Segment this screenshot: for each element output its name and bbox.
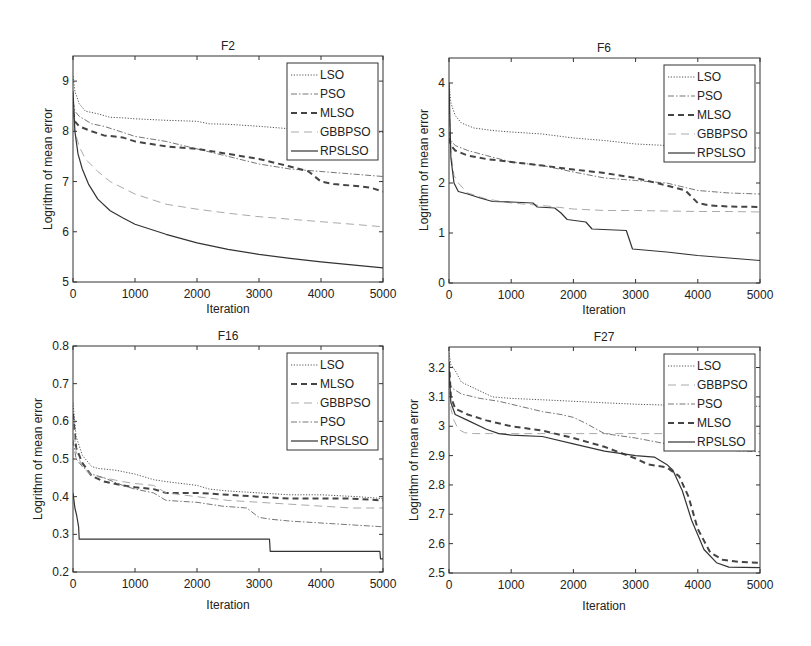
x-axis-label: Iteration xyxy=(582,599,625,613)
y-tick-label: 2 xyxy=(438,176,445,190)
x-tick-label: 5000 xyxy=(747,288,774,302)
y-tick-label: 3 xyxy=(438,126,445,140)
subplot-title: F2 xyxy=(221,39,235,53)
y-tick-label: 2.6 xyxy=(428,537,445,551)
x-tick-label: 2000 xyxy=(560,288,587,302)
legend-label-pso: PSO xyxy=(697,397,722,411)
y-tick-label: 1 xyxy=(438,226,445,240)
y-tick-label: 4 xyxy=(438,76,445,90)
x-tick-label: 4000 xyxy=(308,287,335,301)
y-axis-label: Logrithm of mean error xyxy=(41,108,55,230)
legend-label-gbbpso: GBBPSO xyxy=(697,378,748,392)
x-tick-label: 3000 xyxy=(246,577,273,591)
series-line-rpslso xyxy=(73,493,383,559)
legend-label-pso: PSO xyxy=(697,89,722,103)
y-tick-label: 3.1 xyxy=(428,390,445,404)
x-tick-label: 1000 xyxy=(498,578,525,592)
legend-label-gbbpso: GBBPSO xyxy=(320,125,371,139)
y-tick-label: 0.5 xyxy=(52,452,69,466)
y-tick-label: 0.6 xyxy=(52,414,69,428)
y-tick-label: 0 xyxy=(438,276,445,290)
x-tick-label: 4000 xyxy=(308,577,335,591)
legend: LSOGBBPSOPSOMLSORPSLSO xyxy=(664,354,755,451)
figure: F2 01000200030004000500056789LSOPSOMLSOG… xyxy=(0,0,811,646)
x-axis-label: Iteration xyxy=(206,598,249,612)
x-tick-label: 3000 xyxy=(246,287,273,301)
subplot-title: F16 xyxy=(218,329,239,343)
y-axis-label: Logrithm of mean error xyxy=(407,399,421,521)
x-tick-label: 2000 xyxy=(184,287,211,301)
legend-label-lso: LSO xyxy=(697,70,721,84)
y-tick-label: 0.4 xyxy=(52,490,69,504)
x-tick-label: 4000 xyxy=(684,288,711,302)
plot-area: 0100020003000400050002.52.62.72.82.933.1… xyxy=(428,347,773,592)
x-tick-label: 5000 xyxy=(370,287,397,301)
y-axis-label: Logrithm of mean error xyxy=(417,109,431,231)
subplot-title: F6 xyxy=(597,41,611,55)
y-tick-label: 5 xyxy=(62,275,69,289)
y-tick-label: 0.3 xyxy=(52,527,69,541)
x-tick-label: 1000 xyxy=(122,287,149,301)
y-tick-label: 2.7 xyxy=(428,507,445,521)
legend-label-pso: PSO xyxy=(320,87,345,101)
legend-label-gbbpso: GBBPSO xyxy=(697,127,748,141)
legend-label-rpslso: RPSLSO xyxy=(320,434,369,448)
series-line-pso xyxy=(73,440,383,527)
y-tick-label: 9 xyxy=(62,74,69,88)
x-tick-label: 0 xyxy=(446,578,453,592)
y-tick-label: 3.2 xyxy=(428,361,445,375)
plot-area: 01000200030004000500056789LSOPSOMLSOGBBP… xyxy=(62,56,396,301)
x-tick-label: 3000 xyxy=(622,578,649,592)
legend-label-mlso: MLSO xyxy=(320,377,354,391)
legend: LSOPSOMLSOGBBPSORPSLSO xyxy=(664,65,755,162)
x-tick-label: 1000 xyxy=(122,577,149,591)
legend-label-rpslso: RPSLSO xyxy=(697,435,746,449)
y-tick-label: 0.2 xyxy=(52,565,69,579)
y-tick-label: 7 xyxy=(62,175,69,189)
y-tick-label: 2.9 xyxy=(428,449,445,463)
y-tick-label: 0.8 xyxy=(52,339,69,353)
legend-label-lso: LSO xyxy=(320,68,344,82)
legend-label-gbbpso: GBBPSO xyxy=(320,396,371,410)
x-tick-label: 0 xyxy=(446,288,453,302)
x-tick-label: 4000 xyxy=(684,578,711,592)
y-tick-label: 3 xyxy=(438,419,445,433)
x-tick-label: 1000 xyxy=(498,288,525,302)
legend-label-mlso: MLSO xyxy=(697,108,731,122)
plot-area: 0100020003000400050000.20.30.40.50.60.70… xyxy=(52,339,396,591)
legend-label-mlso: MLSO xyxy=(697,416,731,430)
x-tick-label: 3000 xyxy=(622,288,649,302)
x-tick-label: 0 xyxy=(70,287,77,301)
y-axis-label: Logrithm of mean error xyxy=(31,398,45,520)
subplot-title: F27 xyxy=(594,330,615,344)
y-tick-label: 2.5 xyxy=(428,566,445,580)
legend-label-lso: LSO xyxy=(320,358,344,372)
x-axis-label: Iteration xyxy=(582,303,625,317)
legend-label-mlso: MLSO xyxy=(320,106,354,120)
legend: LSOPSOMLSOGBBPSORPSLSO xyxy=(287,63,378,160)
legend-label-rpslso: RPSLSO xyxy=(320,144,369,158)
y-tick-label: 2.8 xyxy=(428,478,445,492)
y-tick-label: 0.7 xyxy=(52,377,69,391)
legend-label-pso: PSO xyxy=(320,415,345,429)
legend: LSOMLSOGBBPSOPSORPSLSO xyxy=(287,353,378,450)
subplot-f27: F27 0100020003000400050002.52.62.72.82.9… xyxy=(407,330,774,613)
y-tick-label: 6 xyxy=(62,225,69,239)
x-tick-label: 0 xyxy=(70,577,77,591)
x-tick-label: 5000 xyxy=(747,578,774,592)
x-tick-label: 2000 xyxy=(184,577,211,591)
x-tick-label: 2000 xyxy=(560,578,587,592)
y-tick-label: 8 xyxy=(62,124,69,138)
subplot-f2: F2 01000200030004000500056789LSOPSOMLSOG… xyxy=(41,39,397,316)
subplot-f16: F16 0100020003000400050000.20.30.40.50.6… xyxy=(31,329,397,612)
subplot-f6: F6 01000200030004000500001234LSOPSOMLSOG… xyxy=(417,41,774,317)
plot-area: 01000200030004000500001234LSOPSOMLSOGBBP… xyxy=(438,58,773,302)
x-tick-label: 5000 xyxy=(370,577,397,591)
x-axis-label: Iteration xyxy=(206,302,249,316)
legend-label-lso: LSO xyxy=(697,359,721,373)
legend-label-rpslso: RPSLSO xyxy=(697,146,746,160)
